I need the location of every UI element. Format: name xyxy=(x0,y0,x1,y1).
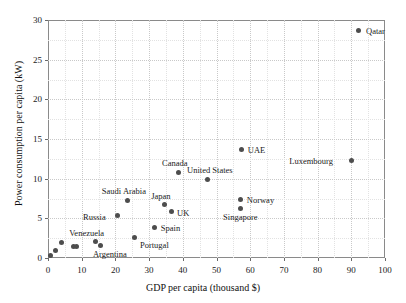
point-label: United States xyxy=(187,166,233,175)
x-tick-mark xyxy=(250,258,251,261)
point-label: Spain xyxy=(161,224,180,233)
data-point xyxy=(356,28,361,33)
y-tick-mark xyxy=(45,179,48,180)
x-tick-mark xyxy=(217,258,218,261)
data-point xyxy=(238,206,243,211)
point-label: Norway xyxy=(247,196,274,205)
point-label: Luxembourg xyxy=(289,157,333,166)
point-label: Russia xyxy=(83,213,106,222)
gridline-horizontal-minor xyxy=(48,80,385,81)
x-tick-mark xyxy=(284,258,285,261)
x-tick-mark xyxy=(183,258,184,261)
data-point xyxy=(125,198,130,203)
point-label: Argentina xyxy=(93,250,127,259)
point-label: Saudi Arabia xyxy=(102,187,146,196)
x-tick-mark xyxy=(318,258,319,261)
gridline-horizontal-minor xyxy=(48,238,385,239)
data-point xyxy=(152,225,157,230)
x-tick-label: 10 xyxy=(77,265,86,275)
y-tick-label: 0 xyxy=(26,253,42,263)
x-tick-label: 20 xyxy=(111,265,120,275)
x-tick-mark xyxy=(351,258,352,261)
gridline-horizontal xyxy=(48,179,385,180)
point-label: Singapore xyxy=(223,213,257,222)
x-tick-label: 0 xyxy=(46,265,51,275)
y-tick-label: 15 xyxy=(26,134,42,144)
x-tick-mark xyxy=(385,258,386,261)
gridline-horizontal-minor xyxy=(48,199,385,200)
y-tick-label: 25 xyxy=(26,55,42,65)
point-label: Japan xyxy=(151,192,170,201)
gridline-horizontal xyxy=(48,99,385,100)
y-tick-label: 20 xyxy=(26,94,42,104)
gridline-horizontal xyxy=(48,60,385,61)
x-tick-mark xyxy=(82,258,83,261)
gridline-horizontal-minor xyxy=(48,40,385,41)
y-tick-label: 5 xyxy=(26,213,42,223)
point-label: Canada xyxy=(162,159,188,168)
x-tick-label: 30 xyxy=(145,265,154,275)
y-tick-label: 10 xyxy=(26,174,42,184)
y-tick-mark xyxy=(45,218,48,219)
data-point xyxy=(48,253,53,258)
y-tick-mark xyxy=(45,139,48,140)
gridline-horizontal xyxy=(48,139,385,140)
y-tick-mark xyxy=(45,99,48,100)
data-point xyxy=(349,158,354,163)
y-axis-title: Power consumption per capita (kW) xyxy=(13,61,24,206)
x-tick-label: 70 xyxy=(279,265,288,275)
y-tick-mark xyxy=(45,60,48,61)
scatter-chart: 0102030405060708090100051015202530 Qatar… xyxy=(0,0,406,303)
y-tick-mark xyxy=(45,20,48,21)
y-tick-mark xyxy=(45,258,48,259)
point-label: UAE xyxy=(248,146,265,155)
x-axis-title: GDP per capita (thousand $) xyxy=(0,282,406,293)
data-point xyxy=(176,170,181,175)
x-tick-label: 40 xyxy=(178,265,187,275)
x-tick-label: 90 xyxy=(347,265,356,275)
x-tick-label: 60 xyxy=(246,265,255,275)
x-tick-mark xyxy=(48,258,49,261)
x-tick-mark xyxy=(149,258,150,261)
x-tick-label: 50 xyxy=(212,265,221,275)
x-tick-label: 80 xyxy=(313,265,322,275)
y-tick-label: 30 xyxy=(26,15,42,25)
gridline-horizontal-minor xyxy=(48,159,385,160)
point-label: Qatar xyxy=(366,27,385,36)
point-label: UK xyxy=(177,209,189,218)
data-point xyxy=(93,239,98,244)
data-point xyxy=(205,177,210,182)
point-label: Portugal xyxy=(140,241,169,250)
gridline-horizontal-minor xyxy=(48,119,385,120)
x-tick-label: 100 xyxy=(378,265,392,275)
point-label: Venezuela xyxy=(69,229,104,238)
